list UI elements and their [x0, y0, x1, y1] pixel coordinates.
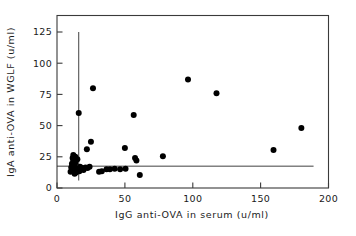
data-point	[74, 156, 80, 162]
data-point	[88, 139, 94, 145]
data-point	[84, 146, 90, 152]
data-point	[112, 166, 118, 172]
chart-canvas: 0 25 50 75 100 125 0 50 100 150 200 IgG …	[0, 0, 356, 236]
x-axis-title: IgG anti-OVA in serum (u/ml)	[115, 209, 269, 220]
y-tick-label-50: 50	[39, 120, 52, 131]
data-point	[122, 145, 128, 151]
reference-lines	[57, 32, 314, 181]
data-point	[185, 76, 191, 82]
data-point	[133, 158, 139, 164]
y-tick-label-25: 25	[39, 151, 52, 162]
y-axis-title: IgA anti-OVA in WGLF (u/ml)	[5, 27, 16, 177]
data-point	[214, 90, 220, 96]
x-tick-label-100: 100	[183, 193, 202, 204]
y-tick-label-75: 75	[39, 89, 52, 100]
data-point	[123, 166, 129, 172]
data-point	[76, 110, 82, 116]
data-point	[298, 125, 304, 131]
data-point	[160, 153, 166, 159]
x-tick-label-200: 200	[319, 193, 338, 204]
data-point	[137, 172, 143, 178]
y-axis-ticks	[57, 32, 63, 188]
data-point	[131, 112, 137, 118]
y-tick-label-125: 125	[33, 26, 52, 37]
data-point	[271, 147, 277, 153]
y-tick-label-100: 100	[33, 58, 52, 69]
x-tick-label-0: 0	[54, 193, 60, 204]
data-point	[90, 85, 96, 91]
plot-frame	[57, 16, 329, 189]
x-tick-label-150: 150	[251, 193, 270, 204]
x-tick-label-50: 50	[119, 193, 132, 204]
data-points-layer	[68, 76, 305, 177]
scatter-plot-figure: 0 25 50 75 100 125 0 50 100 150 200 IgG …	[0, 0, 356, 236]
x-axis-ticks	[57, 183, 329, 189]
y-tick-label-0: 0	[46, 182, 52, 193]
data-point	[117, 166, 123, 172]
data-point	[87, 164, 93, 170]
